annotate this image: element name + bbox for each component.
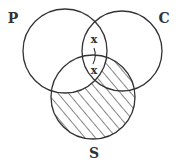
mark-x-upper: x xyxy=(91,33,98,46)
set-label-s: S xyxy=(89,145,99,161)
set-label-c: C xyxy=(158,10,169,26)
mark-x-lower: x xyxy=(91,64,98,77)
set-label-p: P xyxy=(8,10,19,26)
venn-diagram: x x P C S xyxy=(0,0,179,168)
